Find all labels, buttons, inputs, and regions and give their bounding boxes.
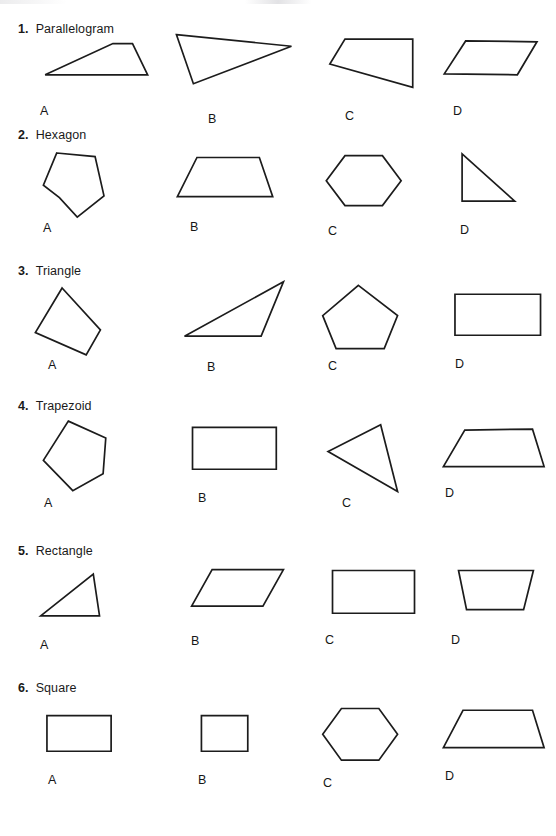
choice-letter-label: D bbox=[460, 223, 469, 237]
question-heading: 6.Square bbox=[18, 681, 77, 695]
shape-rectangle bbox=[418, 280, 556, 362]
question-number: 4. bbox=[18, 399, 29, 413]
choice-letter-label: D bbox=[445, 769, 454, 783]
shape-rectangle bbox=[18, 696, 157, 778]
question-number: 5. bbox=[18, 544, 29, 558]
shape-outline bbox=[323, 285, 398, 348]
choice-letter-label: C bbox=[325, 633, 334, 647]
shape-concave-hexagon bbox=[18, 145, 157, 227]
shape-outline bbox=[328, 425, 398, 492]
shape-outline bbox=[443, 710, 544, 747]
shape-outline bbox=[330, 39, 413, 87]
choice-letter-label: C bbox=[328, 224, 337, 238]
choice-letter-label: A bbox=[43, 221, 51, 235]
answer-choice-b[interactable]: B bbox=[160, 32, 299, 132]
answer-choice-a[interactable]: A bbox=[18, 558, 157, 658]
choice-letter-label: D bbox=[455, 357, 464, 371]
shape-trapezoid bbox=[418, 414, 556, 496]
answer-choice-a[interactable]: A bbox=[18, 414, 157, 514]
shape-outline bbox=[177, 157, 272, 196]
question-shape-name: Trapezoid bbox=[36, 399, 92, 413]
shape-outline bbox=[184, 282, 283, 336]
choice-letter-label: C bbox=[345, 109, 354, 123]
shape-quadrilateral bbox=[18, 280, 157, 362]
choice-letter-label: A bbox=[48, 358, 56, 372]
answer-choice-b[interactable]: B bbox=[160, 280, 299, 380]
question-shape-name: Square bbox=[36, 681, 77, 695]
shape-thin-triangle bbox=[160, 280, 299, 362]
choice-letter-label: A bbox=[48, 773, 56, 787]
choice-letter-label: D bbox=[453, 104, 462, 118]
answer-choice-d[interactable]: D bbox=[418, 696, 556, 796]
answer-choice-b[interactable]: B bbox=[160, 414, 299, 514]
answer-choice-a[interactable]: A bbox=[18, 696, 157, 796]
shape-outline bbox=[443, 429, 544, 466]
question-heading: 5.Rectangle bbox=[18, 544, 93, 558]
choice-letter-label: B bbox=[198, 491, 206, 505]
answer-choice-row: ABCD bbox=[0, 414, 556, 514]
shape-triangle bbox=[18, 558, 157, 640]
choice-letter-label: C bbox=[323, 776, 332, 790]
scan-artifact-strip bbox=[0, 0, 556, 4]
answer-choice-d[interactable]: D bbox=[418, 145, 556, 245]
answer-choice-row: ABCD bbox=[0, 32, 556, 132]
shape-outline bbox=[459, 570, 534, 609]
answer-choice-row: ABCD bbox=[0, 558, 556, 658]
question-heading: 4.Trapezoid bbox=[18, 399, 92, 413]
answer-choice-a[interactable]: A bbox=[18, 280, 157, 380]
shape-trapezoid bbox=[18, 32, 157, 114]
answer-choice-a[interactable]: A bbox=[18, 145, 157, 245]
shape-outline bbox=[323, 708, 398, 760]
shape-rectangle bbox=[160, 414, 299, 496]
shape-outline bbox=[41, 574, 100, 616]
choice-letter-label: B bbox=[191, 634, 199, 648]
choice-letter-label: D bbox=[445, 486, 454, 500]
choice-letter-label: C bbox=[342, 496, 351, 510]
choice-letter-label: D bbox=[451, 633, 460, 647]
worksheet-page: 1.ParallelogramABCD2.HexagonABCD3.Triang… bbox=[0, 0, 556, 836]
shape-trapezoid bbox=[418, 558, 556, 640]
question-heading: 3.Triangle bbox=[18, 264, 81, 278]
answer-choice-b[interactable]: B bbox=[160, 145, 299, 245]
answer-choice-row: ABCD bbox=[0, 145, 556, 245]
answer-choice-b[interactable]: B bbox=[160, 558, 299, 658]
choice-letter-label: B bbox=[190, 220, 198, 234]
answer-choice-b[interactable]: B bbox=[160, 696, 299, 796]
shape-outline bbox=[45, 44, 148, 75]
answer-choice-row: ABCD bbox=[0, 696, 556, 796]
choice-letter-label: B bbox=[207, 360, 215, 374]
answer-choice-d[interactable]: D bbox=[418, 414, 556, 514]
shape-outline bbox=[333, 570, 415, 613]
shape-outline bbox=[444, 41, 537, 75]
question-shape-name: Triangle bbox=[36, 264, 82, 278]
shape-outline bbox=[192, 570, 284, 607]
shape-outline bbox=[201, 716, 247, 752]
shape-outline bbox=[193, 427, 277, 469]
choice-letter-label: A bbox=[44, 496, 52, 510]
shape-outline bbox=[326, 156, 401, 206]
question-shape-name: Rectangle bbox=[36, 544, 93, 558]
shape-right-triangle bbox=[418, 145, 556, 227]
choice-letter-label: B bbox=[198, 773, 206, 787]
answer-choice-d[interactable]: D bbox=[418, 558, 556, 658]
shape-rotated-pentagon bbox=[18, 414, 157, 496]
shape-trapezoid bbox=[418, 696, 556, 778]
answer-choice-d[interactable]: D bbox=[418, 280, 556, 380]
shape-outline bbox=[47, 716, 111, 752]
question-number: 3. bbox=[18, 264, 29, 278]
shape-triangle bbox=[160, 32, 299, 114]
answer-choice-d[interactable]: D bbox=[418, 32, 556, 132]
shape-parallelogram bbox=[160, 558, 299, 640]
shape-outline bbox=[462, 154, 515, 201]
shape-outline bbox=[176, 35, 291, 84]
choice-letter-label: B bbox=[208, 112, 216, 126]
question-shape-name: Hexagon bbox=[36, 128, 87, 142]
question-heading: 2.Hexagon bbox=[18, 128, 86, 142]
choice-letter-label: A bbox=[40, 104, 48, 118]
answer-choice-row: ABCD bbox=[0, 280, 556, 380]
shape-parallelogram bbox=[418, 32, 556, 114]
answer-choice-a[interactable]: A bbox=[18, 32, 157, 132]
choice-letter-label: A bbox=[40, 638, 48, 652]
shape-outline bbox=[43, 153, 104, 217]
shape-outline bbox=[35, 288, 100, 355]
